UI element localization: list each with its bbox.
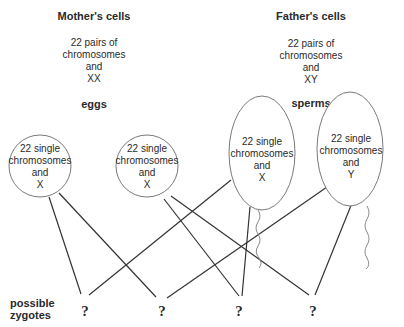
egg-cell-1-line-2: chromosomes — [9, 155, 72, 166]
father-line-1: 22 pairs of — [288, 38, 335, 49]
zygote-1-unknown: ? — [81, 303, 89, 319]
father-section: Father's cells 22 pairs of chromosomes a… — [276, 10, 346, 109]
sperm-cell-y-line-1: 22 single — [331, 133, 371, 144]
father-line-3: and — [303, 62, 320, 73]
possible-zygotes-label-2: zygotes — [10, 309, 51, 321]
egg-cell-2: 22 single chromosomes and X — [116, 135, 179, 197]
connection-egg1-zygote2 — [59, 193, 156, 297]
zygote-3-unknown: ? — [235, 303, 243, 319]
egg-cell-2-line-3: and — [139, 167, 156, 178]
egg-cell-1-line-4: X — [37, 179, 44, 190]
mother-line-3: and — [86, 61, 103, 72]
egg-cell-2-line-2: chromosomes — [116, 155, 179, 166]
egg-cell-2-line-1: 22 single — [127, 143, 167, 154]
sperm-cell-x-line-4: X — [259, 172, 266, 183]
mother-section: Mother's cells 22 pairs of chromosomes a… — [58, 10, 131, 110]
mother-line-1: 22 pairs of — [71, 37, 118, 48]
connection-spermx-zygote1 — [89, 180, 231, 295]
zygotes-row: possible zygotes ? ? ? ? — [10, 297, 317, 321]
egg-cell-1-line-3: and — [32, 167, 49, 178]
zygote-2-unknown: ? — [158, 303, 166, 319]
possible-zygotes-label-1: possible — [10, 297, 55, 309]
eggs-label: eggs — [81, 98, 107, 110]
father-title: Father's cells — [276, 10, 346, 22]
egg-cell-1-line-1: 22 single — [20, 143, 60, 154]
egg-cell-2-line-4: X — [144, 179, 151, 190]
father-line-4: XY — [304, 74, 318, 85]
sperm-cell-y-line-4: Y — [348, 169, 355, 180]
connection-lines — [49, 178, 352, 298]
sperm-cell-y-line-2: chromosomes — [320, 145, 383, 156]
egg-cell-1: 22 single chromosomes and X — [9, 135, 72, 197]
sperm-cell-y-line-3: and — [343, 157, 360, 168]
sperms-label: sperms — [291, 97, 330, 109]
connection-egg2-zygote3 — [164, 199, 239, 296]
sperm-y-tail — [365, 206, 369, 269]
father-line-2: chromosomes — [280, 50, 343, 61]
mother-title: Mother's cells — [58, 10, 131, 22]
sperm-cell-x: 22 single chromosomes and X — [229, 96, 295, 268]
sperm-cell-x-line-1: 22 single — [242, 136, 282, 147]
sperm-cell-x-line-2: chromosomes — [231, 148, 294, 159]
sperm-cell-x-line-3: and — [254, 160, 271, 171]
mother-line-2: chromosomes — [63, 49, 126, 60]
sperm-cell-y: 22 single chromosomes and Y — [317, 92, 383, 269]
mother-line-4: XX — [87, 73, 101, 84]
zygote-4-unknown: ? — [309, 303, 317, 319]
connection-spermy-zygote4 — [315, 203, 352, 295]
inheritance-diagram: Mother's cells 22 pairs of chromosomes a… — [0, 0, 404, 327]
